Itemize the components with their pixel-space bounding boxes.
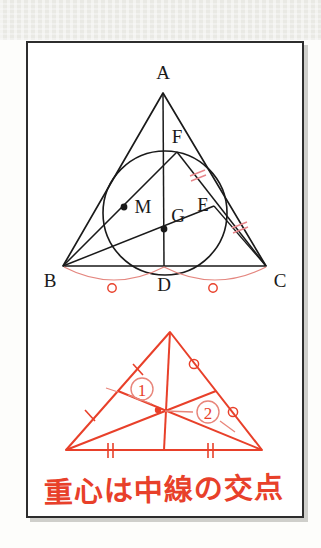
segment-fb [63,152,177,266]
label-e: E [197,194,209,215]
label-m: M [135,196,152,217]
upper-diagram-group: A B C D E F M G [44,62,287,295]
lower-diagram-group: 1 2 [66,332,262,458]
arc-bd [64,267,164,280]
arc-mark-dc-circle-icon [209,284,217,292]
label-c: C [274,270,287,291]
leader-line-region-2b [220,421,235,432]
arc-mark-bd-circle-icon [108,284,116,292]
label-f: F [172,126,183,147]
region-label-1-text: 1 [138,381,147,400]
arc-dc [164,267,266,280]
label-g: G [171,205,185,226]
red-centroid-dot [155,407,161,413]
label-b: B [44,270,57,291]
region-label-1: 1 [131,378,153,400]
region-label-2: 2 [197,401,219,423]
red-median-apex-base [164,332,170,450]
region-label-2-text: 2 [204,404,213,423]
point-m-dot [121,204,128,211]
red-tick-left-lower [85,410,95,421]
median-ad [163,93,164,266]
figure-page: A B C D E F M G [0,0,321,548]
point-g-dot [161,226,168,233]
median-cf [177,152,266,266]
geometry-figure: A B C D E F M G [0,0,321,548]
label-a: A [156,62,170,83]
leader-line-region-1b [106,388,118,392]
label-d: D [157,274,171,295]
